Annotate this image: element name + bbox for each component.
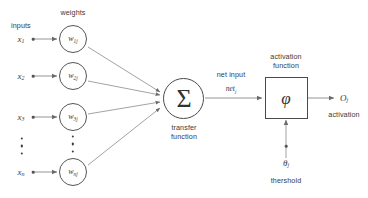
inputs-header: inputs <box>11 22 31 30</box>
phi-symbol: φ <box>281 89 290 109</box>
input-label-1: x1 <box>18 34 25 45</box>
weights-ellipsis <box>72 136 74 153</box>
transfer-function-caption-line2: function <box>171 133 197 141</box>
input-label-n: xn <box>18 167 25 178</box>
weight-to-sum-n <box>88 108 160 165</box>
weight-label-n: wnj <box>68 167 77 176</box>
input-origin-dot-3 <box>32 116 35 119</box>
weight-label-2: w2j <box>68 71 77 80</box>
weight-label-3: w3j <box>68 112 77 121</box>
threshold-origin-dot <box>285 145 288 148</box>
input-origin-dot-2 <box>32 75 35 78</box>
net-input-symbol: netj <box>226 84 237 93</box>
activation-function-caption-line2: function <box>273 62 299 70</box>
weight-to-sum-2 <box>88 81 160 95</box>
net-input-caption: net input <box>217 71 245 79</box>
input-label-2: x2 <box>18 71 25 82</box>
threshold-caption: thershold <box>271 177 301 185</box>
weight-to-sum-3 <box>88 102 160 114</box>
weight-label-1: w1j <box>68 34 77 43</box>
threshold-symbol: θj <box>283 158 289 169</box>
input-origin-dot-1 <box>32 38 35 41</box>
sigma-symbol: Σ <box>176 84 191 114</box>
weights-header: weights <box>60 9 85 17</box>
input-label-3: x3 <box>18 112 25 123</box>
input-origin-dot-n <box>32 171 35 174</box>
output-symbol: Oj <box>340 93 348 104</box>
inputs-ellipsis <box>21 138 23 155</box>
output-caption: activation <box>328 111 359 119</box>
weight-to-sum-1 <box>88 47 160 92</box>
neuron-diagram: inputs weights x1 x2 x3 xn w1j w2j w3j w… <box>0 0 368 198</box>
